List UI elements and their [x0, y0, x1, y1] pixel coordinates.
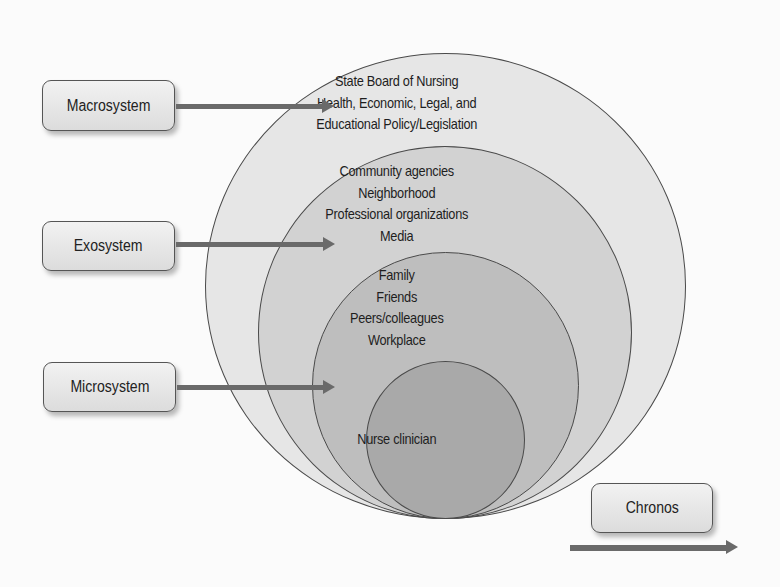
chronos-box: Chronos: [591, 483, 713, 533]
exosystem-line-1: Community agencies: [54, 161, 740, 183]
microsystem-box: Microsystem: [43, 362, 176, 412]
macrosystem-box: Macrosystem: [42, 80, 175, 131]
exosystem-arrow-icon: [176, 242, 324, 247]
microsystem-text: Family Friends Peers/colleagues Workplac…: [54, 265, 740, 351]
microsystem-arrow-icon: [177, 385, 324, 390]
exosystem-line-2: Neighborhood: [54, 183, 740, 205]
microsystem-line-2: Friends: [54, 287, 740, 309]
macrosystem-box-label: Macrosystem: [67, 97, 151, 115]
exosystem-box-label: Exosystem: [74, 237, 143, 255]
microsystem-line-3: Peers/colleagues: [54, 308, 740, 330]
nurse-clinician-label: Nurse clinician: [54, 429, 740, 451]
core-text: Nurse clinician: [54, 429, 740, 451]
chronos-box-label: Chronos: [625, 499, 678, 517]
ecological-systems-diagram: State Board of Nursing Health, Economic,…: [0, 0, 780, 587]
macrosystem-arrow-icon: [176, 104, 323, 109]
microsystem-line-4: Workplace: [54, 330, 740, 352]
microsystem-box-label: Microsystem: [70, 378, 149, 396]
chronos-time-arrow-icon: [570, 545, 727, 551]
exosystem-box: Exosystem: [42, 221, 175, 271]
